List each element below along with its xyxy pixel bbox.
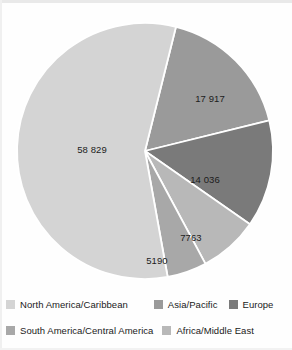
legend-label-europe: Europe [243,299,274,310]
legend-item-north-america-caribbean[interactable]: North America/Caribbean [6,299,128,310]
legend-item-europe[interactable]: Europe [229,299,274,310]
pie-value-label-south-america-central-america: 5190 [146,255,168,266]
legend-label-south-america-central-america: South America/Central America [20,325,153,336]
legend-swatch-europe [229,300,238,309]
legend-label-africa-middle-east: Africa/Middle East [176,325,253,336]
pie-chart-graphic: 17 91714 0367763519058 829 [0,0,292,292]
legend-swatch-asia-pacific [154,300,163,309]
legend-item-asia-pacific[interactable]: Asia/Pacific [154,299,218,310]
legend-item-africa-middle-east[interactable]: Africa/Middle East [162,325,253,336]
legend-swatch-south-america-central-america [6,326,15,335]
pie-value-label-asia-pacific: 17 917 [195,93,225,104]
legend-swatch-africa-middle-east [162,326,171,335]
pie-value-label-africa-middle-east: 7763 [180,232,202,243]
legend-swatch-north-america-caribbean [6,300,15,309]
pie-chart-figure: 17 91714 0367763519058 829 North America… [0,0,292,350]
legend-row-1: North America/Caribbean Asia/Pacific Eur… [6,294,292,314]
legend-item-south-america-central-america[interactable]: South America/Central America [6,325,153,336]
pie-value-label-north-america-caribbean: 58 829 [77,144,107,155]
legend-row-2: South America/Central America Africa/Mid… [6,320,292,340]
chart-legend: North America/Caribbean Asia/Pacific Eur… [6,294,292,340]
pie-value-label-europe: 14 036 [190,174,220,185]
legend-label-north-america-caribbean: North America/Caribbean [20,299,128,310]
pie-slice-group [17,23,273,279]
legend-label-asia-pacific: Asia/Pacific [168,299,218,310]
